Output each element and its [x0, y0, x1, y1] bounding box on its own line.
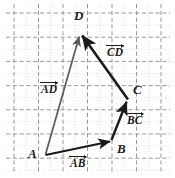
point-label-B: B — [117, 142, 126, 155]
vector-AD-arrow — [46, 37, 80, 155]
vector-label-BC: BC — [126, 113, 143, 127]
vector-overline-icon — [106, 45, 124, 46]
vector-overline-icon — [40, 82, 58, 83]
vector-label-CD: CD — [106, 45, 124, 59]
vector-overline-icon — [69, 156, 86, 157]
vector-diagram-figure: D C B A CD BC AB AD — [0, 0, 175, 178]
vector-label-AB: AB — [69, 156, 86, 170]
diagram-canvas — [0, 0, 175, 178]
vector-label-AD: AD — [40, 82, 58, 96]
vector-AB-arrow — [46, 142, 111, 156]
point-label-D: D — [74, 9, 83, 22]
vector-overline-icon — [126, 113, 143, 114]
point-label-A: A — [28, 147, 37, 160]
point-label-C: C — [133, 83, 142, 96]
